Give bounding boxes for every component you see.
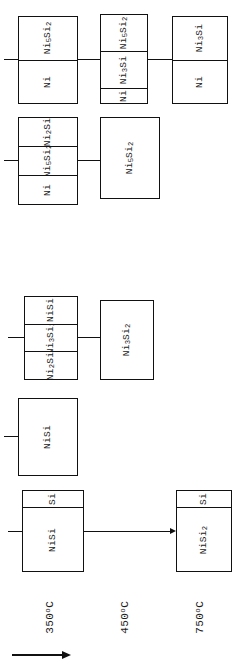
connector-450-to-750-row1 bbox=[148, 59, 172, 60]
layer-label: Ni3Si2 bbox=[122, 324, 132, 357]
layer-ni2si: Ni2Si bbox=[25, 352, 77, 379]
phase-formation-diagram: Ni5Si2 Ni Ni2Si Ni5Si2 Ni NiSi Ni3Si2 Ni… bbox=[0, 0, 243, 670]
axis-arrow-head bbox=[62, 651, 71, 659]
box-ni3si2-single: Ni3Si2 bbox=[100, 300, 154, 380]
layer-si: Si bbox=[177, 491, 231, 508]
box-ni5si2-ni3si-ni: Ni5Si2 Ni3Si Ni bbox=[100, 14, 148, 104]
entry-tick bbox=[4, 59, 18, 60]
layer-si: Si bbox=[23, 491, 83, 508]
box-si-nisi: Si NiSi bbox=[22, 490, 84, 572]
temperature-label-750c: 750oC bbox=[194, 587, 206, 647]
axis-arrow-shaft bbox=[12, 654, 64, 656]
layer-label: Ni2Si bbox=[46, 352, 56, 379]
layer-label: Ni bbox=[119, 90, 129, 102]
entry-tick bbox=[8, 337, 24, 338]
box-nisi-single: NiSi bbox=[18, 398, 78, 476]
layer-label: Si bbox=[48, 493, 58, 505]
layer-label: Si bbox=[199, 493, 209, 505]
connector-350-to-450-row3 bbox=[78, 337, 100, 338]
layer-ni3si2: Ni3Si2 bbox=[101, 301, 153, 379]
entry-tick bbox=[4, 436, 18, 437]
layer-label: NiSi bbox=[43, 425, 53, 449]
layer-nisi: NiSi bbox=[25, 297, 77, 325]
box-ni5si2-ni: Ni5Si2 Ni bbox=[18, 16, 78, 104]
layer-ni: Ni bbox=[101, 89, 147, 103]
layer-ni5si2: Ni5Si2 bbox=[19, 17, 77, 61]
layer-nisi: NiSi bbox=[19, 399, 77, 475]
layer-label: Ni3Si bbox=[119, 56, 129, 84]
temperature-axis-arrow bbox=[12, 650, 74, 660]
layer-nisi2: NiSi2 bbox=[177, 508, 231, 571]
layer-label: NiSi bbox=[48, 527, 58, 551]
layer-label: Ni2Si bbox=[43, 118, 53, 146]
layer-label: Ni bbox=[195, 76, 205, 88]
box-nisi-ni3si2-ni2si: NiSi Ni3Si2 Ni2Si bbox=[24, 296, 78, 380]
connector-arrowhead bbox=[170, 528, 176, 534]
temperature-label-450c: 450oC bbox=[119, 587, 131, 647]
layer-ni5si2: Ni5Si2 bbox=[101, 15, 147, 52]
box-ni5si2-single: Ni5Si2 bbox=[100, 117, 160, 199]
layer-label: Ni bbox=[43, 184, 53, 196]
layer-label: Ni3Si2 bbox=[46, 325, 56, 353]
layer-ni3si: Ni3Si bbox=[101, 52, 147, 89]
temperature-label-350c: 350oC bbox=[44, 587, 56, 647]
layer-ni: Ni bbox=[19, 176, 77, 204]
connector-350-to-450-row1 bbox=[78, 59, 100, 60]
layer-label: Ni5Si2 bbox=[43, 147, 53, 176]
layer-label: NiSi2 bbox=[199, 525, 209, 553]
layer-nisi: NiSi bbox=[23, 508, 83, 571]
layer-ni2si: Ni2Si bbox=[19, 118, 77, 147]
connector-350-to-450-row2 bbox=[78, 160, 100, 161]
box-si-nisi2: Si NiSi2 bbox=[176, 490, 232, 572]
box-ni2si-ni5si2-ni: Ni2Si Ni5Si2 Ni bbox=[18, 117, 78, 205]
layer-label: Ni5Si2 bbox=[119, 17, 129, 50]
layer-ni5si2: Ni5Si2 bbox=[101, 118, 159, 198]
layer-ni: Ni bbox=[19, 61, 77, 104]
entry-tick bbox=[4, 160, 18, 161]
entry-tick bbox=[8, 531, 22, 532]
layer-ni: Ni bbox=[173, 61, 227, 104]
layer-ni3si2: Ni3Si2 bbox=[25, 325, 77, 353]
layer-label: Ni3Si bbox=[195, 24, 205, 52]
layer-ni5si2: Ni5Si2 bbox=[19, 147, 77, 176]
layer-label: Ni bbox=[43, 76, 53, 88]
connector-350-to-750-row5 bbox=[84, 531, 170, 532]
layer-label: NiSi bbox=[46, 298, 56, 322]
box-ni3si-ni: Ni3Si Ni bbox=[172, 16, 228, 104]
layer-label: Ni5Si2 bbox=[125, 142, 135, 175]
layer-ni3si: Ni3Si bbox=[173, 17, 227, 61]
layer-label: Ni5Si2 bbox=[43, 22, 53, 55]
